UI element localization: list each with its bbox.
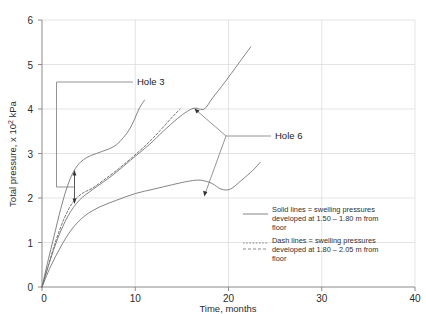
ytick-label-0: 0 xyxy=(27,282,33,293)
legend-solid-line-2: developed at 1.50 – 1.80 m from xyxy=(272,214,378,223)
y-tick-marks xyxy=(38,20,42,287)
ytick-label-2: 2 xyxy=(27,193,33,204)
legend-solid-line-1: Solid lines = swelling pressures xyxy=(272,205,375,214)
xtick-label-10: 10 xyxy=(130,293,142,304)
y-axis-title: Total pressure, x 102 kPa xyxy=(7,100,18,207)
legend-dash-line-2: developed at 1.80 – 2.05 m from xyxy=(272,245,378,254)
ytick-label-5: 5 xyxy=(27,60,33,71)
chart-figure: 6 5 4 3 2 1 0 0 10 20 30 40 Total pressu… xyxy=(0,0,426,314)
xtick-label-0: 0 xyxy=(41,293,47,304)
xtick-label-30: 30 xyxy=(316,293,328,304)
xtick-label-40: 40 xyxy=(409,293,421,304)
ytick-label-3: 3 xyxy=(27,149,33,160)
legend-dash-line-1: Dash lines = swelling pressures xyxy=(272,236,376,245)
x-tick-marks xyxy=(42,287,415,291)
ytick-label-4: 4 xyxy=(27,104,33,115)
hole-3-label: Hole 3 xyxy=(137,76,164,87)
hole-6-label: Hole 6 xyxy=(275,130,302,141)
legend-solid-line-3: floor xyxy=(272,223,287,232)
legend-dash-line-3: floor xyxy=(272,254,287,263)
ytick-label-6: 6 xyxy=(27,15,33,26)
chart-svg: 6 5 4 3 2 1 0 0 10 20 30 40 Total pressu… xyxy=(0,0,426,314)
y-axis-title-unit: kPa xyxy=(7,100,18,120)
x-axis-title: Time, months xyxy=(199,303,256,314)
ytick-label-1: 1 xyxy=(27,238,33,249)
y-axis-title-main: Total pressure, x 10 xyxy=(7,124,18,207)
